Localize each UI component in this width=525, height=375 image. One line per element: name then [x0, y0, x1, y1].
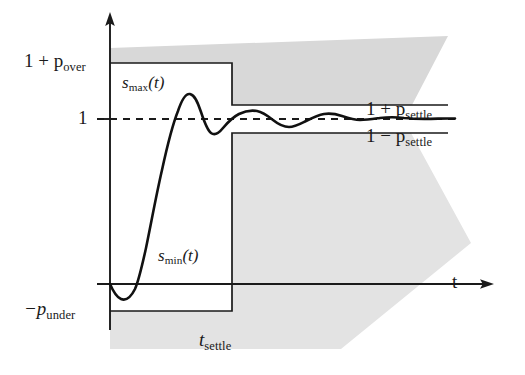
figure-root: 1 + pover 1 smax(t) smin(t) −punder tset… [0, 0, 525, 375]
undershoot-bound-label: −punder [24, 299, 75, 321]
upper-envelope-label: smax(t) [122, 74, 164, 94]
lower-envelope-label: smin(t) [158, 247, 198, 267]
upper-forbidden-band [110, 36, 448, 105]
settle-lower-label: 1 − psettle [366, 126, 432, 148]
settle-time-label: tsettle [199, 330, 231, 352]
unity-label: 1 [78, 108, 88, 127]
overshoot-bound-label: 1 + pover [24, 51, 86, 73]
x-axis-label: t [452, 272, 457, 291]
settle-upper-label: 1 + psettle [366, 99, 432, 121]
